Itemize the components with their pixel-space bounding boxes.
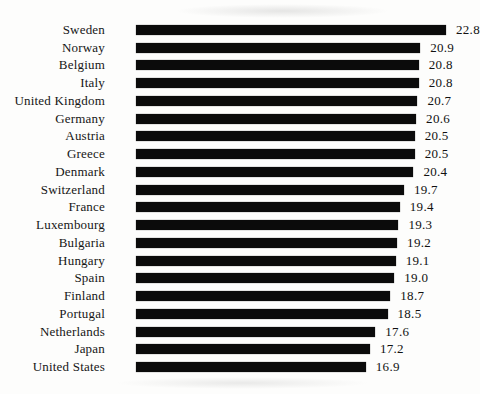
country-label: Finland bbox=[0, 288, 136, 304]
scan-smudge-top bbox=[175, 4, 390, 18]
bar bbox=[136, 220, 398, 230]
bar bbox=[136, 60, 419, 70]
country-label: Japan bbox=[0, 341, 136, 357]
bar bbox=[136, 131, 415, 141]
bar-row: Denmark20.4 bbox=[0, 163, 480, 181]
bar bbox=[136, 362, 366, 372]
bar-row: Hungary19.1 bbox=[0, 252, 480, 270]
value-label: 20.5 bbox=[425, 146, 449, 162]
bar-row: Luxembourg19.3 bbox=[0, 216, 480, 234]
country-label: Luxembourg bbox=[0, 217, 136, 233]
bar bbox=[136, 327, 375, 337]
country-label: Belgium bbox=[0, 57, 136, 73]
value-label: 20.8 bbox=[429, 75, 453, 91]
value-label: 19.3 bbox=[408, 217, 432, 233]
bar-row: Norway20.9 bbox=[0, 39, 480, 57]
bar-row: Italy20.8 bbox=[0, 74, 480, 92]
country-label: Netherlands bbox=[0, 324, 136, 340]
bar bbox=[136, 185, 404, 195]
bar bbox=[136, 291, 390, 301]
value-label: 20.9 bbox=[430, 40, 454, 56]
bar-row: Greece20.5 bbox=[0, 145, 480, 163]
value-label: 20.8 bbox=[429, 57, 453, 73]
bar-row: Portugal18.5 bbox=[0, 305, 480, 323]
bar bbox=[136, 43, 420, 53]
bar-row: United Kingdom20.7 bbox=[0, 92, 480, 110]
value-label: 18.7 bbox=[400, 288, 424, 304]
bar bbox=[136, 273, 394, 283]
value-label: 18.5 bbox=[398, 306, 422, 322]
bar bbox=[136, 114, 416, 124]
value-label: 19.7 bbox=[414, 182, 438, 198]
bar bbox=[136, 256, 396, 266]
bar-row: Sweden22.8 bbox=[0, 21, 480, 39]
bar-row: Switzerland19.7 bbox=[0, 181, 480, 199]
value-label: 19.4 bbox=[410, 199, 434, 215]
country-label: Portugal bbox=[0, 306, 136, 322]
country-label: Greece bbox=[0, 146, 136, 162]
value-label: 22.8 bbox=[456, 22, 480, 38]
bar bbox=[136, 309, 388, 319]
country-label: United States bbox=[0, 359, 136, 375]
country-label: Switzerland bbox=[0, 182, 136, 198]
bar bbox=[136, 25, 446, 35]
country-label: Denmark bbox=[0, 164, 136, 180]
bar bbox=[136, 238, 397, 248]
bar-row: United States16.9 bbox=[0, 358, 480, 376]
bar-row: Spain19.0 bbox=[0, 270, 480, 288]
bar-chart: Sweden22.8Norway20.9Belgium20.8Italy20.8… bbox=[0, 21, 480, 376]
bar-row: Germany20.6 bbox=[0, 110, 480, 128]
value-label: 20.7 bbox=[427, 93, 451, 109]
country-label: Italy bbox=[0, 75, 136, 91]
bar-row: Bulgaria19.2 bbox=[0, 234, 480, 252]
value-label: 19.2 bbox=[407, 235, 431, 251]
bar-row: Netherlands17.6 bbox=[0, 323, 480, 341]
bar bbox=[136, 78, 419, 88]
bar-row: Finland18.7 bbox=[0, 287, 480, 305]
value-label: 20.5 bbox=[425, 128, 449, 144]
bar bbox=[136, 96, 417, 106]
bar bbox=[136, 344, 370, 354]
bar-row: Japan17.2 bbox=[0, 341, 480, 359]
value-label: 19.1 bbox=[406, 253, 430, 269]
country-label: Bulgaria bbox=[0, 235, 136, 251]
bar-row: France19.4 bbox=[0, 199, 480, 217]
country-label: Sweden bbox=[0, 22, 136, 38]
country-label: Hungary bbox=[0, 253, 136, 269]
country-label: France bbox=[0, 199, 136, 215]
country-label: United Kingdom bbox=[0, 93, 136, 109]
scan-smudge-bottom bbox=[115, 377, 370, 389]
value-label: 20.6 bbox=[426, 111, 450, 127]
value-label: 20.4 bbox=[423, 164, 447, 180]
country-label: Norway bbox=[0, 40, 136, 56]
country-label: Austria bbox=[0, 128, 136, 144]
value-label: 17.6 bbox=[385, 324, 409, 340]
country-label: Spain bbox=[0, 270, 136, 286]
bar-row: Austria20.5 bbox=[0, 128, 480, 146]
bar bbox=[136, 149, 415, 159]
bar bbox=[136, 167, 413, 177]
value-label: 16.9 bbox=[376, 359, 400, 375]
country-label: Germany bbox=[0, 111, 136, 127]
value-label: 17.2 bbox=[380, 341, 404, 357]
value-label: 19.0 bbox=[404, 270, 428, 286]
bar bbox=[136, 202, 400, 212]
bar-row: Belgium20.8 bbox=[0, 57, 480, 75]
